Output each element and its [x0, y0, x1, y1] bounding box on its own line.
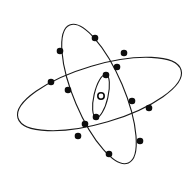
electron-dot: [57, 48, 64, 55]
electron-dot: [92, 35, 99, 42]
electron-dot: [121, 50, 128, 57]
nucleus-ring: [98, 93, 104, 99]
electron-dot: [129, 98, 136, 105]
electron-dot: [93, 114, 100, 121]
electron-dot: [146, 105, 153, 112]
atom-diagram: Atom model: [0, 0, 196, 177]
electron-dot: [106, 151, 113, 158]
electron-dot: [48, 79, 55, 86]
electron-dot: [65, 87, 72, 94]
electron-dot: [137, 138, 144, 145]
electron-dot: [114, 64, 121, 71]
atom-icon: [0, 0, 196, 177]
electron-dot: [75, 133, 82, 140]
electron-dot: [82, 121, 89, 128]
electron-dot: [103, 72, 110, 79]
